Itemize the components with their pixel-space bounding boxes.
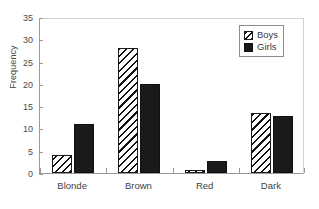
legend-label-girls: Girls: [257, 42, 277, 52]
legend-item-boys: Boys: [244, 29, 278, 41]
bar-dark-girls: [273, 116, 293, 173]
y-axis-tick-label: 10: [23, 125, 33, 134]
y-axis-tickmark: [39, 18, 43, 19]
x-axis-label-blonde: Blonde: [57, 180, 87, 191]
y-axis-tick-label: 35: [23, 14, 33, 23]
legend-swatch-girls-icon: [244, 43, 253, 52]
bar-dark-boys: [251, 113, 271, 173]
y-axis-tick-label: 20: [23, 80, 33, 89]
bar-chart: Frequency 05101520253035 BlondeBrownRedD…: [0, 0, 319, 209]
y-axis-tick-label: 30: [23, 36, 33, 45]
legend-label-boys: Boys: [257, 30, 278, 40]
bar-red-boys: [185, 170, 205, 173]
legend-swatch-boys-icon: [244, 31, 253, 40]
y-axis-tickmark: [39, 174, 43, 175]
y-axis-tickmark: [39, 107, 43, 108]
y-axis-tickmark: [39, 85, 43, 86]
y-axis-title: Frequency: [8, 27, 18, 107]
bar-brown-boys: [118, 48, 138, 173]
x-axis-tickmark: [239, 168, 240, 173]
x-axis-tickmark: [173, 168, 174, 173]
chart-legend: Boys Girls: [239, 25, 284, 57]
y-axis-tick-label: 0: [28, 170, 33, 179]
bar-blonde-girls: [74, 124, 94, 173]
x-axis-label-brown: Brown: [125, 180, 152, 191]
y-axis-tick-label: 25: [23, 58, 33, 67]
y-axis-tick-label: 5: [28, 147, 33, 156]
bar-red-girls: [207, 161, 227, 173]
y-axis-tickmark: [39, 63, 43, 64]
x-axis-tickmark: [106, 168, 107, 173]
y-axis-tickmark: [39, 40, 43, 41]
y-axis-tickmark: [39, 152, 43, 153]
x-axis-tickmark: [40, 168, 41, 173]
y-axis-tick-label: 15: [23, 103, 33, 112]
x-axis-label-dark: Dark: [261, 180, 281, 191]
y-axis-tickmark: [39, 129, 43, 130]
x-axis-tickmark: [304, 168, 305, 173]
legend-item-girls: Girls: [244, 41, 278, 53]
bar-blonde-boys: [52, 155, 72, 173]
x-axis-label-red: Red: [196, 180, 213, 191]
bar-brown-girls: [140, 84, 160, 173]
